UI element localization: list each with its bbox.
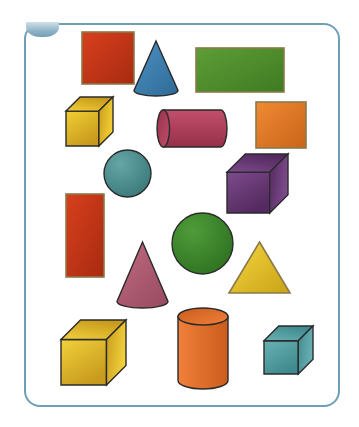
teal-sphere[interactable] (100, 146, 155, 201)
illustration-canvas (0, 0, 359, 427)
yellow-cube-top[interactable] (62, 93, 117, 150)
purple-cube[interactable] (223, 150, 292, 217)
yellow-triangle[interactable] (225, 238, 294, 297)
rose-cone[interactable] (113, 238, 172, 312)
orange-square[interactable] (252, 98, 310, 152)
red-square[interactable] (78, 28, 138, 88)
top-left-badge (26, 22, 59, 37)
blue-cone[interactable] (130, 37, 182, 100)
yellow-cube-bottom[interactable] (57, 316, 130, 389)
rose-cylinder[interactable] (153, 106, 231, 151)
red-rectangle-tall[interactable] (62, 190, 108, 281)
green-rectangle[interactable] (192, 44, 288, 96)
orange-cylinder[interactable] (174, 304, 232, 393)
teal-cube[interactable] (260, 322, 317, 378)
